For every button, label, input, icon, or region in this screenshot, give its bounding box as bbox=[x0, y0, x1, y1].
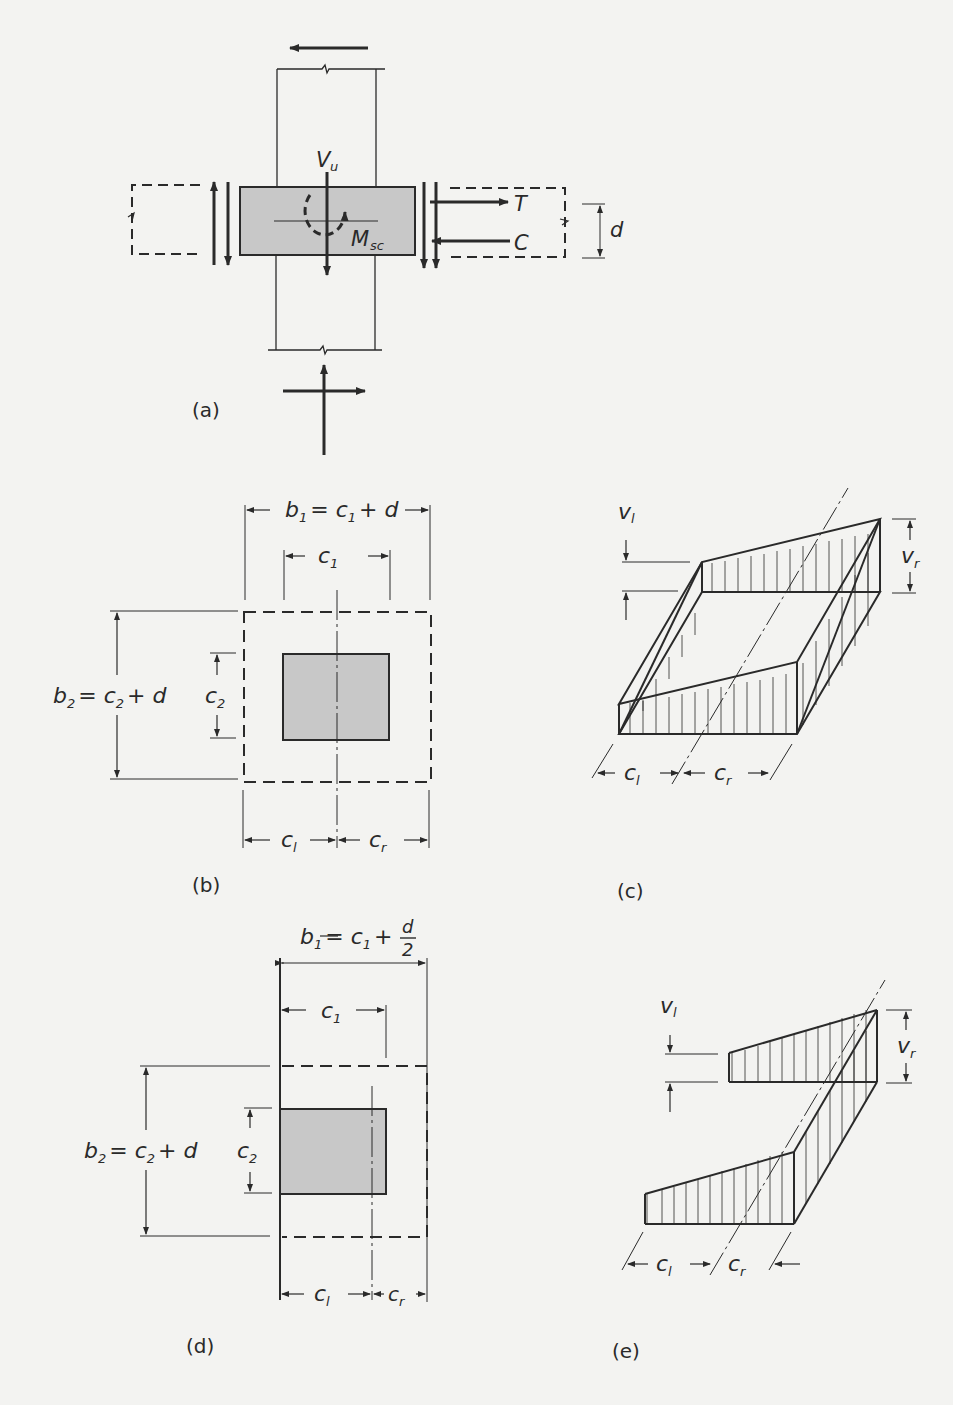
msc-label: M bbox=[351, 227, 369, 251]
panel-a bbox=[128, 48, 605, 455]
fraction-numerator: d bbox=[402, 916, 414, 937]
cr-label-c: cr bbox=[714, 760, 733, 788]
c1-label-d: c1 bbox=[321, 998, 341, 1026]
vl-label-c: vl bbox=[618, 499, 635, 526]
depth-label: d bbox=[610, 218, 624, 242]
vl-label-e: vl bbox=[660, 993, 677, 1020]
cl-label-c: cl bbox=[624, 760, 640, 788]
b1-formula-d: b1= c1+ bbox=[300, 924, 393, 952]
fraction-denominator: 2 bbox=[402, 939, 413, 960]
cr-label-b: cr bbox=[369, 827, 388, 855]
caption-e: (e) bbox=[612, 1339, 640, 1363]
c2-label-b: c2 bbox=[205, 683, 225, 711]
vr-label-e: vr bbox=[897, 1033, 917, 1061]
vr-label-c: vr bbox=[901, 543, 921, 571]
c2-label-d: c2 bbox=[237, 1138, 257, 1166]
cl-label-d: cl bbox=[314, 1281, 330, 1309]
cr-label-d: cr bbox=[388, 1282, 406, 1309]
b1-formula-b: b1= c1+ d bbox=[285, 497, 399, 525]
b2-formula-d: b2= c2+ d bbox=[84, 1138, 198, 1166]
svg-text:u: u bbox=[330, 159, 338, 174]
svg-text:b1= c1+ d: b1= c1+ d bbox=[285, 497, 399, 525]
caption-b: (b) bbox=[192, 873, 220, 897]
c1-label-b: c1 bbox=[318, 543, 338, 571]
shear-stress-hatch bbox=[630, 534, 868, 734]
column-section-b bbox=[283, 654, 389, 740]
panel-b bbox=[110, 505, 431, 848]
panel-c bbox=[592, 488, 916, 784]
panel-d bbox=[140, 936, 427, 1302]
shear-stress-hatch-e bbox=[647, 1010, 866, 1224]
tension-label: T bbox=[514, 192, 529, 216]
cr-label-e: cr bbox=[728, 1251, 747, 1279]
column-section-d bbox=[280, 1109, 386, 1194]
cl-label-b: cl bbox=[281, 827, 297, 855]
panel-e bbox=[622, 980, 912, 1275]
caption-a: (a) bbox=[192, 398, 220, 422]
caption-d: (d) bbox=[186, 1334, 214, 1358]
punching-shear-diagram: V u M sc T C d (a) b1= c1+ d c1 b2= c bbox=[0, 0, 953, 1405]
b2-formula-b: b2= c2+ d bbox=[53, 683, 167, 711]
caption-c: (c) bbox=[617, 879, 644, 903]
compression-label: C bbox=[514, 231, 529, 255]
svg-text:sc: sc bbox=[370, 238, 384, 253]
figure-canvas: V u M sc T C d (a) b1= c1+ d c1 b2= c bbox=[0, 0, 953, 1405]
cl-label-e: cl bbox=[656, 1251, 672, 1279]
